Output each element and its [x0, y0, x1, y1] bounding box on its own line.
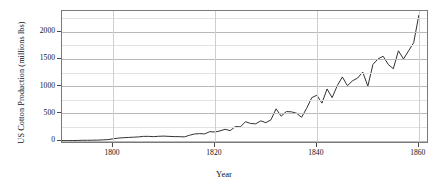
gridline-vertical: [317, 11, 318, 142]
y-tick-mark: [57, 85, 61, 86]
x-tick-mark: [214, 143, 215, 147]
x-tick-label: 1820: [199, 148, 229, 157]
chart-figure: US Cotton Production (millions lbs) 0500…: [0, 0, 448, 196]
gridline-horizontal-major: [62, 141, 427, 142]
gridline-horizontal-major: [62, 113, 427, 114]
gridline-horizontal-minor: [62, 100, 427, 101]
gridline-horizontal-minor: [62, 127, 427, 128]
y-tick-mark: [57, 140, 61, 141]
y-tick-mark: [57, 112, 61, 113]
x-tick-label: 1800: [97, 148, 127, 157]
line-series: [62, 11, 428, 143]
y-tick-mark: [57, 31, 61, 32]
x-tick-mark: [112, 143, 113, 147]
y-tick-label: 1000: [40, 81, 55, 90]
gridline-horizontal-major: [62, 86, 427, 87]
y-tick-label: 1500: [40, 53, 55, 62]
x-tick-label: 1840: [301, 148, 331, 157]
y-tick-label: 2000: [40, 26, 55, 35]
gridline-horizontal-minor: [62, 45, 427, 46]
gridline-vertical: [113, 11, 114, 142]
gridline-vertical: [419, 11, 420, 142]
gridline-horizontal-minor: [62, 73, 427, 74]
y-axis-title: US Cotton Production (millions lbs): [17, 8, 26, 158]
y-tick-mark: [57, 58, 61, 59]
gridline-horizontal-minor: [62, 18, 427, 19]
x-tick-mark: [316, 143, 317, 147]
gridline-vertical: [215, 11, 216, 142]
gridline-horizontal-major: [62, 59, 427, 60]
x-tick-label: 1860: [403, 148, 433, 157]
y-tick-label: 500: [44, 108, 55, 117]
x-axis-title: Year: [0, 169, 448, 179]
plot-area: [61, 10, 428, 143]
gridline-horizontal-major: [62, 32, 427, 33]
x-tick-mark: [418, 143, 419, 147]
y-tick-label: 0: [51, 135, 55, 144]
